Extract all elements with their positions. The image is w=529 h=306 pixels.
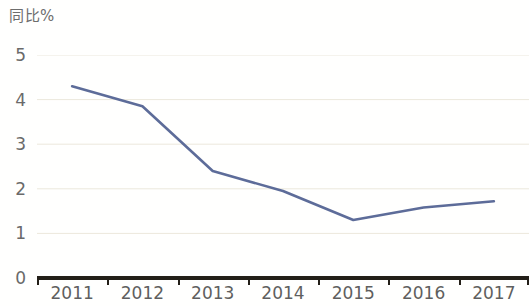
x-axis-line (37, 276, 529, 280)
x-tick-label: 2012 (121, 283, 164, 304)
y-tick-label: 4 (15, 91, 26, 108)
line-chart-plot (37, 55, 529, 278)
chart-container: 同比% 012345 2011201220132014201520162017 (0, 0, 529, 306)
x-tick-label: 2015 (332, 283, 375, 304)
x-tick-label: 2017 (472, 283, 515, 304)
gridlines (37, 55, 529, 233)
y-tick-label: 2 (15, 180, 26, 197)
x-tick-label: 2013 (191, 283, 234, 304)
y-tick-label: 0 (15, 270, 26, 287)
data-series-layer (72, 86, 494, 220)
x-axis-labels: 2011201220132014201520162017 (37, 283, 529, 306)
x-tick-label: 2014 (261, 283, 304, 304)
plot-area (37, 55, 529, 278)
series-line (72, 86, 494, 220)
y-tick-label: 3 (15, 136, 26, 153)
x-tick-label: 2016 (402, 283, 445, 304)
y-axis-labels: 012345 (0, 0, 37, 306)
x-tick-label: 2011 (51, 283, 94, 304)
y-tick-label: 5 (15, 47, 26, 64)
y-tick-label: 1 (15, 225, 26, 242)
